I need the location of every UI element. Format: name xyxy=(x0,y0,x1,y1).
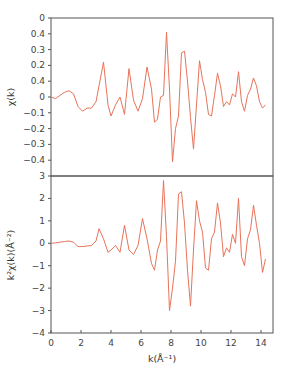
x-tick-label: 6 xyxy=(138,338,144,348)
y-tick-label: −0.1 xyxy=(23,108,45,118)
y-tick-label: 0.3 xyxy=(31,45,45,55)
y-tick-label: 0 xyxy=(39,92,45,102)
y-tick-label: 0 xyxy=(39,238,45,248)
exafs-chart: 00.40.30.20.40−0.1−0.2−0.3−0.4 χ(k) 3210… xyxy=(0,0,288,374)
y-tick-label: 2 xyxy=(39,193,45,203)
y-tick-label: −0.3 xyxy=(23,139,45,149)
y-tick-label: 0 xyxy=(39,13,45,23)
x-tick-label: 4 xyxy=(108,338,114,348)
y-tick-label: −3 xyxy=(32,306,45,316)
x-tick-label: 10 xyxy=(195,338,207,348)
x-tick-label: 14 xyxy=(255,338,267,348)
y-tick-label: −1 xyxy=(32,261,45,271)
y-tick-label: 1 xyxy=(39,216,45,226)
bottom-plot-frame xyxy=(51,176,273,333)
y-tick-label: −2 xyxy=(32,283,45,293)
top-plot-frame xyxy=(51,18,273,176)
y-tick-label: −0.4 xyxy=(23,155,45,165)
top-y-axis-ticks: 00.40.30.20.40−0.1−0.2−0.3−0.4 xyxy=(23,13,51,165)
y-tick-label: 0.4 xyxy=(31,29,46,39)
y-tick-label: −0.2 xyxy=(23,124,45,134)
top-y-axis-title: χ(k) xyxy=(5,88,16,106)
y-tick-label: 0.4 xyxy=(31,76,46,86)
x-tick-label: 8 xyxy=(168,338,174,348)
y-tick-label: 0.2 xyxy=(31,60,45,70)
x-tick-label: 0 xyxy=(48,338,54,348)
x-tick-label: 12 xyxy=(225,338,236,348)
k2-chi-k-line xyxy=(51,181,266,311)
top-panel-chi: 00.40.30.20.40−0.1−0.2−0.3−0.4 χ(k) xyxy=(5,13,273,176)
bottom-panel-k2chi: 3210−1−2−3−4 02468101214 k²χ(k)(Å⁻²) k(Å… xyxy=(5,171,273,364)
chi-k-line xyxy=(51,32,266,162)
bottom-y-axis-ticks: 3210−1−2−3−4 xyxy=(32,171,51,338)
x-tick-label: 2 xyxy=(78,338,84,348)
bottom-y-axis-title: k²χ(k)(Å⁻²) xyxy=(5,230,16,280)
y-tick-label: 3 xyxy=(39,171,45,181)
x-axis-title: k(Å⁻¹) xyxy=(148,353,176,364)
y-tick-label: −4 xyxy=(32,328,46,338)
